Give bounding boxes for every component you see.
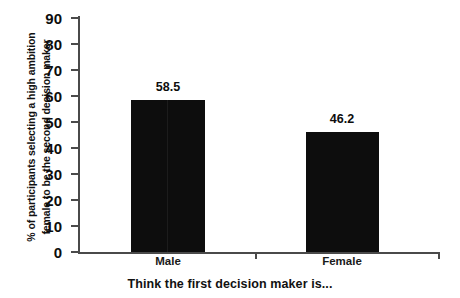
y-axis-tick: 20 — [71, 199, 78, 201]
y-axis-tick-label: 50 — [45, 115, 62, 130]
y-axis-tick: 60 — [71, 95, 78, 97]
y-axis-tick-label: 10 — [45, 219, 62, 234]
y-axis-tick: 70 — [71, 69, 78, 71]
y-axis-tick: 40 — [71, 147, 78, 149]
y-axis-tick: 80 — [71, 43, 78, 45]
y-axis-tick-label: 90 — [45, 11, 62, 26]
y-axis-tick-label: 60 — [45, 89, 62, 104]
x-axis-title: Think the first decision maker is... — [0, 277, 460, 291]
y-axis-tick: 90 — [71, 17, 78, 19]
x-axis-category-label: Female — [322, 256, 362, 268]
y-axis-tick-label: 70 — [45, 63, 62, 78]
bar: 46.2 — [306, 132, 379, 252]
x-axis-line — [78, 252, 440, 254]
bar-chart-figure: % of participants selecting a high ambit… — [0, 0, 460, 298]
y-axis-line — [78, 16, 80, 254]
x-axis-mid-tick — [255, 252, 257, 259]
x-axis-category-label: Male — [155, 256, 181, 268]
y-axis-tick-label: 40 — [45, 141, 62, 156]
y-axis-tick: 0 — [71, 251, 78, 253]
y-axis-tick: 50 — [71, 121, 78, 123]
bar-value-label: 46.2 — [330, 113, 354, 126]
y-axis-tick: 10 — [71, 225, 78, 227]
y-axis-tick-label: 20 — [45, 193, 62, 208]
x-axis-end-tick — [438, 252, 440, 259]
y-axis-tick-label: 0 — [54, 245, 62, 260]
y-axis-tick-label: 80 — [45, 37, 62, 52]
y-axis-tick: 30 — [71, 173, 78, 175]
y-axis-title-line-1: % of participants selecting a high ambit… — [24, 32, 39, 241]
plot-area: 0102030405060708090 58.5Male46.2Female — [78, 18, 440, 252]
bar-value-label: 58.5 — [156, 81, 180, 94]
y-axis-tick-label: 30 — [45, 167, 62, 182]
bar-seam — [167, 100, 168, 252]
bar: 58.5 — [131, 100, 205, 252]
